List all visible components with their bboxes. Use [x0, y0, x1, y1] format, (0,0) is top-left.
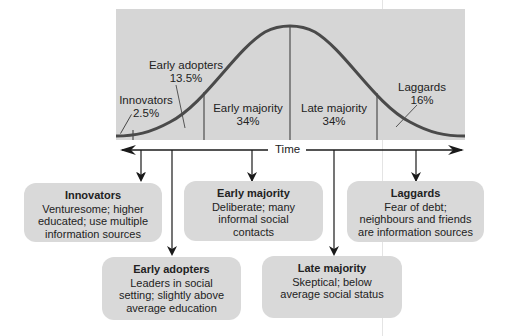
segment-name: Innovators	[119, 94, 173, 106]
segment-percent: 34%	[236, 115, 259, 127]
box-description: Skeptical; below average social status	[262, 276, 402, 301]
box-late-majority: Late majority Skeptical; below average s…	[262, 256, 402, 318]
segment-percent: 13.5%	[170, 72, 203, 84]
box-innovators: Innovators Venturesome; higher educated;…	[24, 183, 162, 242]
box-title: Laggards	[347, 187, 484, 200]
label-early-majority: Early majority 34%	[207, 102, 289, 128]
box-title: Early majority	[184, 187, 323, 200]
box-title: Late majority	[262, 262, 402, 275]
segment-name: Early majority	[213, 102, 283, 114]
segment-name: Laggards	[398, 81, 446, 93]
box-description: Leaders in social setting; slightly abov…	[102, 277, 241, 315]
box-title: Innovators	[24, 189, 162, 202]
segment-name: Early adopters	[149, 59, 223, 71]
box-laggards: Laggards Fear of debt; neighbours and fr…	[347, 181, 484, 242]
label-innovators: Innovators 2.5%	[115, 94, 177, 120]
label-early-adopters: Early adopters 13.5%	[146, 59, 226, 85]
segment-percent: 16%	[410, 94, 433, 106]
box-description: Deliberate; many informal social contact…	[184, 201, 323, 239]
segment-percent: 2.5%	[133, 107, 159, 119]
adoption-diagram: Early adopters 13.5% Innovators 2.5% Ear…	[0, 0, 506, 336]
box-early-adopters: Early adopters Leaders in social setting…	[102, 257, 241, 320]
box-description: Fear of debt; neighbours and friends are…	[347, 201, 484, 239]
label-laggards: Laggards 16%	[392, 81, 452, 107]
box-early-majority: Early majority Deliberate; many informal…	[184, 181, 323, 241]
time-axis-label: Time	[271, 143, 304, 155]
box-description: Venturesome; higher educated; use multip…	[24, 203, 162, 241]
bell-curve-chart	[0, 0, 506, 336]
box-title: Early adopters	[102, 263, 241, 276]
segment-percent: 34%	[322, 115, 345, 127]
segment-name: Late majority	[301, 102, 367, 114]
label-late-majority: Late majority 34%	[292, 102, 376, 128]
